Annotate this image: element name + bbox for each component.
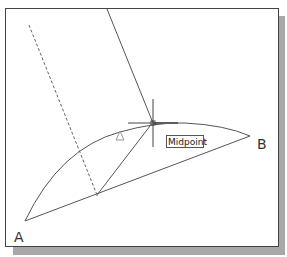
snap-tooltip: Midpoint: [166, 135, 204, 148]
leader-line: [107, 9, 153, 123]
point-b-label: B: [257, 136, 267, 152]
drawing-canvas[interactable]: [0, 0, 287, 257]
rubberband-line: [97, 126, 150, 195]
arc-ab: [25, 123, 250, 221]
dashed-construction-line: [29, 25, 97, 195]
point-a-label: A: [14, 229, 24, 245]
chord-point: [96, 194, 98, 196]
chord-line-ab: [25, 136, 250, 221]
